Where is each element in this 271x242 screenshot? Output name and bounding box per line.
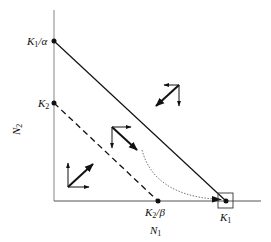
label-k1-over-alpha: K1/α [26, 35, 47, 49]
y-axis-label: N2 [10, 124, 24, 136]
vector-group-middle [112, 127, 137, 150]
point-k2 [52, 101, 57, 106]
trajectory-curve [142, 150, 214, 199]
phase-plane-diagram: K1/α K2 K2/β K1 N1 N2 [0, 0, 271, 242]
label-k2: K2 [37, 97, 49, 111]
x-axis-label: N1 [149, 224, 161, 238]
point-k2-over-beta [156, 199, 161, 204]
point-k1 [224, 199, 229, 204]
trajectory-arrowhead [212, 196, 222, 203]
vector-group-upper [156, 85, 179, 106]
label-k1: K1 [219, 211, 231, 225]
point-k1-over-alpha [52, 39, 57, 44]
vector-group-lower [68, 163, 93, 187]
label-k2-over-beta: K2/β [144, 206, 165, 220]
